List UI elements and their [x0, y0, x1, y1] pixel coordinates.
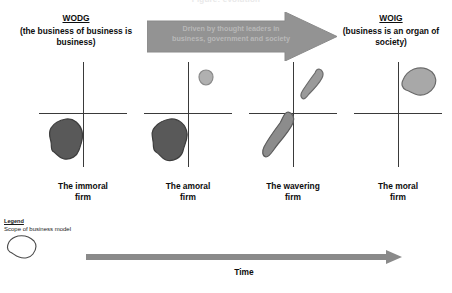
blob-upper-right-2 [198, 69, 214, 86]
quadrant-cross-2 [138, 62, 238, 167]
stage-caption-3-line2: firm [285, 192, 301, 202]
blob-lower-left-2 [149, 117, 191, 162]
pole-code-wodg: WODG [6, 13, 146, 25]
horizontal-axis [144, 113, 232, 114]
blob-upper-right-4 [400, 66, 438, 98]
blob-lower-left-1 [46, 117, 86, 161]
stage-caption-4-line1: The moral [378, 181, 418, 191]
driver-arrow-text: Driven by thought leaders in business, g… [152, 24, 310, 44]
stage-caption-1: The immoral firm [28, 181, 138, 203]
pole-label-right: WOIG (business is an organ of society) [330, 13, 452, 49]
driver-arrow-text-line1: Driven by thought leaders in [182, 24, 279, 33]
clipped-title: Figure: evolution [0, 0, 452, 4]
stage-caption-2-line2: firm [180, 192, 196, 202]
horizontal-axis [354, 113, 442, 114]
stage-caption-3-line1: The wavering [266, 181, 320, 191]
diagram-canvas: Figure: evolution WODG (the business of … [0, 0, 452, 293]
stage-caption-2-line1: The amoral [166, 181, 211, 191]
time-axis-label: Time [86, 267, 402, 277]
legend-title: Legend [4, 218, 80, 225]
legend-blob-icon [6, 234, 80, 260]
stage-caption-4-line2: firm [390, 192, 406, 202]
pole-code-woig: WOIG [330, 13, 452, 25]
quadrant-cross-3 [243, 62, 343, 167]
pole-expansion-woig: (business is an organ of society) [343, 26, 439, 48]
pole-expansion-wodg: (the business of business is business) [20, 26, 132, 48]
blob-upper-right-3 [299, 67, 325, 101]
blob-lower-left-3 [261, 110, 297, 160]
stage-caption-2: The amoral firm [133, 181, 243, 203]
legend-description: Scope of business model [4, 226, 80, 234]
horizontal-axis [39, 113, 127, 114]
legend: Legend Scope of business model [4, 218, 80, 260]
quadrant-cross-4 [348, 62, 448, 167]
driver-arrow-text-line2: business, government and society [172, 34, 290, 43]
stage-caption-4: The moral firm [343, 181, 452, 203]
pole-label-left: WODG (the business of business is busine… [6, 13, 146, 49]
stage-caption-3: The wavering firm [238, 181, 348, 203]
stage-caption-1-line1: The immoral [58, 181, 108, 191]
stage-caption-1-line2: firm [75, 192, 91, 202]
quadrant-cross-1 [33, 62, 133, 167]
time-arrow-icon [86, 250, 402, 264]
